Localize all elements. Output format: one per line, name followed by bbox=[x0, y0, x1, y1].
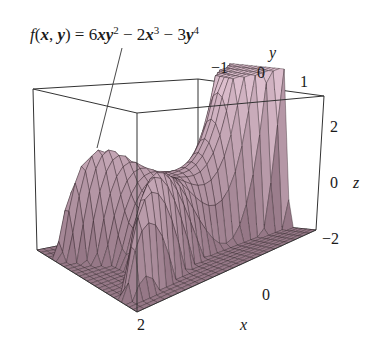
annotation-leader-line bbox=[97, 48, 122, 148]
x-axis-label: x bbox=[239, 316, 247, 333]
y-tick-neg1: −1 bbox=[211, 59, 228, 76]
z-tick-neg2: −2 bbox=[322, 230, 339, 247]
z-tick-2: 2 bbox=[330, 118, 338, 135]
surface-plot-figure: f(x, y) = 6xy2 − 2x3 − 3y4 y −1 0 1 2 0 … bbox=[0, 0, 389, 353]
y-tick-1: 1 bbox=[300, 73, 308, 90]
z-axis-label: z bbox=[352, 174, 360, 191]
x-tick-0: 0 bbox=[262, 286, 270, 303]
y-axis-label: y bbox=[267, 44, 277, 62]
formula-label: f(x, y) = 6xy2 − 2x3 − 3y4 bbox=[30, 24, 199, 44]
y-tick-0: 0 bbox=[257, 64, 265, 81]
x-tick-2: 2 bbox=[137, 316, 145, 333]
z-tick-0: 0 bbox=[330, 174, 338, 191]
plot-canvas: f(x, y) = 6xy2 − 2x3 − 3y4 y −1 0 1 2 0 … bbox=[0, 0, 389, 353]
